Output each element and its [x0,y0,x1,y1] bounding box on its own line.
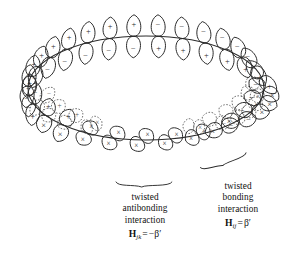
p-orbital: −+ [175,17,190,60]
antibonding-formula-value: −β′ [149,228,162,239]
lobe-sign: + [66,112,71,121]
lobe-sign: − [253,80,258,89]
lobe-sign: + [67,33,72,42]
lobe-sign: × [267,100,272,109]
lobe-sign: − [26,103,31,112]
lobe-sign: + [51,42,56,51]
lobe-sign: × [89,123,93,131]
lobe-sign: − [229,121,234,130]
lobe-sign: − [220,33,225,42]
lobe-sign: − [156,20,161,29]
lobe-sign: × [210,127,215,136]
lobe-sign: + [86,27,91,36]
lobe-sign: × [134,142,138,150]
lobe-sign: × [117,129,121,137]
lobe-sign: + [46,102,51,111]
orbital-layer: +−+−+−+−+−+−+−+−−+−+−+−+−+−+−+−×−×−××−×−… [20,15,279,152]
antibonding-line-3: interaction [104,215,186,226]
bonding-line-2: bonding [199,192,277,203]
lobe-sign: + [204,51,209,60]
lobe-sign: − [245,52,250,61]
lobe-sign: × [189,135,193,143]
bonding-formula-subscript: ij [232,222,236,229]
ghost-lobe [183,119,194,134]
antibonding-formula: Hjk=−β′ [104,228,186,243]
lobe-sign: × [58,130,63,139]
lobe-sign: + [27,79,32,88]
twisted-orbital-ring-figure: ×××−−××++− +−+−+−+−+−+−+−+−−+−+−+−+−+−+−… [0,0,290,265]
lobe-sign: × [259,108,264,117]
lobe-sign: + [132,20,137,29]
lobe-sign: + [39,51,44,60]
lobe-sign: × [41,121,46,130]
lobe-sign: − [45,65,50,74]
lobe-sign: − [240,106,245,115]
p-orbital: +− [79,22,95,65]
lobe-sign: − [47,90,51,98]
bonding-line-3: interaction [199,204,277,215]
brace-antibonding-curve [116,182,172,187]
caption-twisted-antibonding: twisted antibonding interaction Hjk=−β′ [104,192,186,242]
lobe-sign: − [179,22,184,31]
lobe-sign: − [249,93,254,102]
brace-bonding [200,153,247,173]
p-orbital: +− [58,28,75,70]
lobe-sign: + [181,46,186,55]
p-orbital: ×+ [53,109,75,141]
lobe-sign: × [106,140,110,148]
antibonding-formula-relation: = [142,228,147,239]
bonding-formula-value: β′ [244,217,251,228]
lobe-sign: − [235,42,240,51]
bonding-formula-relation: = [237,217,242,228]
lobe-sign: − [83,51,88,60]
antibonding-line-2: antibonding [104,203,186,214]
p-orbital: ×× [102,126,125,150]
lobe-sign: × [162,140,166,148]
lobe-sign: − [131,44,136,53]
antibonding-line-1: twisted [104,192,186,203]
lobe-sign: + [75,111,79,119]
lobe-sign: − [246,115,251,124]
brace-bonding-curve [200,153,247,173]
lobe-sign: + [58,102,62,110]
p-orbital: −+ [197,22,213,65]
bonding-formula: Hij=β′ [199,217,277,232]
lobe-sign: × [202,128,206,136]
p-orbital: +− [41,37,60,79]
lobe-sign: − [251,64,256,73]
lobe-sign: + [108,22,113,31]
lobe-sign: × [81,136,85,144]
p-orbital: +− [102,17,117,60]
brace-antibonding [116,182,172,187]
caption-twisted-bonding: twisted bonding interaction Hij=β′ [199,181,277,231]
lobe-sign: − [63,57,68,66]
lobe-sign: − [201,27,206,36]
lobe-sign: × [175,131,179,139]
lobe-sign: + [225,57,230,66]
lobe-sign: + [156,44,161,53]
bonding-line-1: twisted [199,181,277,192]
antibonding-formula-subscript: jk [136,233,141,240]
p-orbital: ×× [158,128,182,150]
lobe-sign: × [145,131,149,139]
lobe-sign: − [107,46,112,55]
